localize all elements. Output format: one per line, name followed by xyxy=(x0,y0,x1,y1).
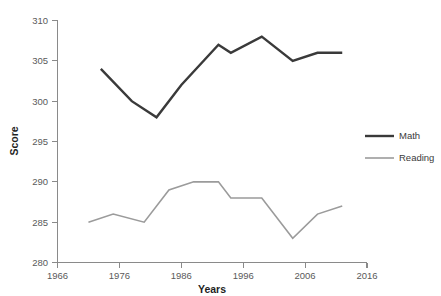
x-tick-label-2006: 2006 xyxy=(295,270,316,281)
line-chart: 280 285 290 295 300 305 310 1966 1976 19… xyxy=(0,0,441,296)
x-tick-label-2016: 2016 xyxy=(356,270,377,281)
y-tick-label-280: 280 xyxy=(32,257,48,268)
y-tick-label-310: 310 xyxy=(32,15,48,26)
y-tick-label-300: 300 xyxy=(32,96,48,107)
y-tick-label-285: 285 xyxy=(32,217,48,228)
chart-legend: Math Reading xyxy=(365,130,434,163)
x-tick-label-1986: 1986 xyxy=(171,270,192,281)
chart-canvas: 280 285 290 295 300 305 310 1966 1976 19… xyxy=(0,0,441,296)
y-axis-title: Score xyxy=(8,126,20,155)
y-tick-label-295: 295 xyxy=(32,136,48,147)
legend-label-math: Math xyxy=(399,130,420,141)
y-tick-label-290: 290 xyxy=(32,176,48,187)
y-tick-label-305: 305 xyxy=(32,55,48,66)
x-axis-title: Years xyxy=(198,283,226,295)
x-tick-label-1996: 1996 xyxy=(233,270,254,281)
series-line-math xyxy=(101,37,342,118)
x-tick-label-1976: 1976 xyxy=(109,270,130,281)
x-tick-label-1966: 1966 xyxy=(47,270,68,281)
series-group xyxy=(88,37,342,239)
series-line-reading xyxy=(88,182,342,238)
x-axis-ticks: 1966 1976 1986 1996 2006 2016 xyxy=(47,263,378,282)
y-axis-ticks: 280 285 290 295 300 305 310 xyxy=(32,15,57,268)
legend-label-reading: Reading xyxy=(399,152,434,163)
